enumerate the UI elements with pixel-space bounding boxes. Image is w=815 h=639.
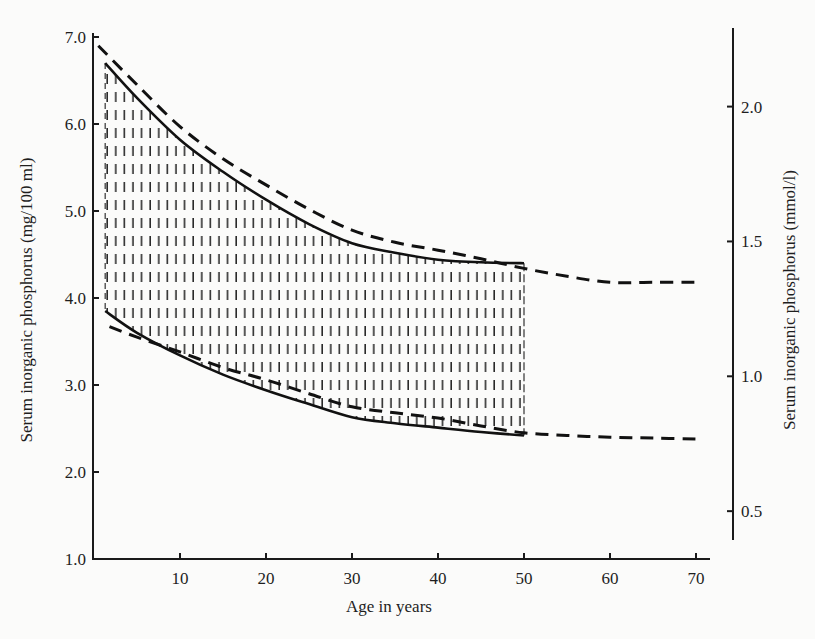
y2-tick-label: 2.0: [741, 98, 762, 117]
x-tick-label: 20: [258, 569, 275, 588]
y-tick-label: 3.0: [65, 376, 86, 395]
y-tick-label: 5.0: [65, 202, 86, 221]
reference-range-band: [105, 63, 524, 435]
y2-tick-label: 0.5: [741, 502, 762, 521]
y-tick-label: 1.0: [65, 550, 86, 569]
x-tick-label: 70: [688, 569, 705, 588]
y-tick-label: 2.0: [65, 463, 86, 482]
x-axis-title: Age in years: [346, 597, 432, 616]
phosphorus-chart: 1.02.03.04.05.06.07.0102030405060700.51.…: [0, 0, 815, 639]
x-tick-label: 40: [430, 569, 447, 588]
y-tick-label: 4.0: [65, 289, 86, 308]
y-tick-label: 7.0: [65, 28, 86, 47]
x-tick-label: 50: [516, 569, 533, 588]
band-fill: [105, 63, 524, 435]
x-tick-label: 60: [602, 569, 619, 588]
y2-tick-label: 1.0: [741, 367, 762, 386]
y2-axis-title: Serum inorganic phosphorus (mmol/l): [780, 170, 799, 430]
y-tick-label: 6.0: [65, 115, 86, 134]
y2-tick-label: 1.5: [741, 232, 762, 251]
x-tick-label: 30: [344, 569, 361, 588]
x-tick-label: 10: [172, 569, 189, 588]
y-axis-title: Serum inorganic phosphorus (mg/100 ml): [17, 158, 36, 443]
